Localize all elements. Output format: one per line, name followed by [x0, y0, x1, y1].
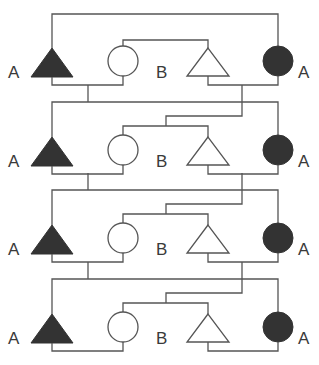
- label-right: A: [298, 329, 310, 348]
- open-circle-member: [108, 135, 138, 165]
- open-triangle-member: [187, 48, 229, 76]
- filled-triangle-member: [31, 314, 73, 343]
- top-connector-line: [52, 102, 278, 137]
- label-left: A: [8, 240, 20, 259]
- filled-circle-member: [263, 223, 293, 253]
- generation-2: A B A: [8, 85, 310, 174]
- right-union-line: [208, 76, 278, 85]
- generation-4: A B A: [8, 262, 310, 351]
- top-connector-line: [52, 190, 278, 225]
- sibling-connector-line: [123, 303, 208, 314]
- sibling-connector-line: [123, 126, 208, 137]
- filled-circle-member: [263, 135, 293, 165]
- pedigree-diagram: A B A A B A A B A: [0, 0, 319, 365]
- label-right: A: [298, 152, 310, 171]
- right-union-line: [208, 253, 278, 262]
- generation-3: A B A: [8, 173, 310, 262]
- label-left: A: [8, 152, 20, 171]
- open-triangle-member: [187, 314, 229, 342]
- right-union-line: [208, 165, 278, 174]
- filled-triangle-member: [31, 137, 73, 166]
- generation-1: A B A: [8, 14, 310, 85]
- filled-triangle-member: [31, 48, 73, 77]
- right-descent-line: [166, 85, 242, 126]
- right-descent-line: [166, 173, 242, 214]
- label-mid: B: [156, 240, 167, 259]
- right-union-line: [208, 342, 278, 351]
- label-mid: B: [156, 152, 167, 171]
- open-circle-member: [108, 46, 138, 76]
- label-mid: B: [156, 329, 167, 348]
- label-left: A: [8, 63, 20, 82]
- label-right: A: [298, 240, 310, 259]
- open-triangle-member: [187, 137, 229, 165]
- sibling-connector-line: [123, 214, 208, 225]
- label-left: A: [8, 329, 20, 348]
- top-connector-line: [52, 279, 278, 314]
- label-mid: B: [156, 63, 167, 82]
- sibling-connector-line: [123, 40, 208, 48]
- filled-circle-member: [263, 312, 293, 342]
- open-triangle-member: [187, 225, 229, 253]
- label-right: A: [298, 63, 310, 82]
- top-connector-line: [52, 14, 278, 48]
- filled-circle-member: [263, 46, 293, 76]
- filled-triangle-member: [31, 225, 73, 254]
- open-circle-member: [108, 223, 138, 253]
- right-descent-line: [166, 262, 242, 303]
- open-circle-member: [108, 312, 138, 342]
